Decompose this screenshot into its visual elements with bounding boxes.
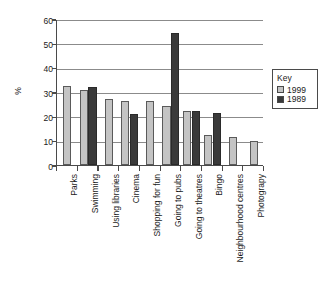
x-axis-label: Going to pubs	[174, 174, 183, 227]
x-tick-mark	[263, 166, 264, 171]
x-axis-label: Bingo	[215, 174, 224, 196]
plot-area	[56, 20, 263, 166]
bar	[130, 114, 138, 165]
x-tick-mark	[222, 166, 223, 171]
x-axis-label: Cinema	[132, 174, 141, 203]
legend-swatch-icon	[277, 96, 284, 103]
x-axis-label: Parks	[70, 174, 79, 196]
bar	[121, 101, 129, 165]
legend-item: 1989	[277, 95, 313, 104]
legend-title: Key	[277, 73, 313, 84]
legend-item: 1999	[277, 86, 313, 95]
bars-layer	[57, 20, 263, 165]
legend-label: 1999	[287, 86, 306, 95]
legend-label: 1989	[287, 95, 306, 104]
x-tick-mark	[201, 166, 202, 171]
bar	[63, 86, 71, 165]
y-axis-ticks: 6050403020100	[0, 20, 56, 166]
bar	[250, 141, 258, 165]
x-tick-mark	[180, 166, 181, 171]
bar	[183, 111, 191, 165]
x-tick-mark	[77, 166, 78, 171]
x-tick-mark	[242, 166, 243, 171]
x-axis-label: Using libraries	[112, 174, 121, 228]
x-tick-mark	[97, 166, 98, 171]
bar	[88, 87, 96, 165]
bar	[229, 137, 237, 165]
x-axis-label: Swimming	[91, 174, 100, 213]
x-axis-label: Going to theatres	[195, 174, 204, 239]
bar	[162, 106, 170, 165]
bar	[105, 99, 113, 165]
x-tick-mark	[139, 166, 140, 171]
x-tick-mark	[160, 166, 161, 171]
x-tick-mark	[118, 166, 119, 171]
bar	[204, 135, 212, 165]
x-axis-label: Neighbourhood centres	[236, 174, 245, 262]
x-axis-label: Shopping for fun	[153, 174, 162, 236]
legend-items: 19991989	[277, 86, 313, 104]
bar	[171, 33, 179, 165]
legend-swatch-icon	[277, 86, 284, 93]
bar	[192, 111, 200, 165]
x-tick-mark	[56, 166, 57, 171]
bar	[213, 113, 221, 165]
legend: Key 19991989	[272, 69, 318, 109]
bar	[146, 101, 154, 165]
bar	[80, 90, 88, 165]
x-axis-labels: ParksSwimmingUsing librariesCinemaShoppi…	[56, 172, 263, 292]
bar-chart: % 6050403020100 ParksSwimmingUsing libra…	[0, 0, 325, 296]
x-axis-label: Photograpy	[257, 174, 266, 217]
